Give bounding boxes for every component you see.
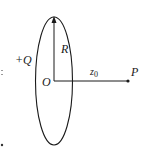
distance-label: z0 xyxy=(89,66,98,79)
charge-label: +Q xyxy=(15,53,32,67)
distance-label-sub: 0 xyxy=(94,70,98,79)
origin-label: O xyxy=(42,75,51,89)
ring-charge-diagram: +Q R O z0 P xyxy=(0,0,146,156)
edge-marks xyxy=(1,70,3,146)
point-label: P xyxy=(130,65,139,79)
radius-label: R xyxy=(60,42,69,56)
point-p-dot xyxy=(126,79,129,82)
